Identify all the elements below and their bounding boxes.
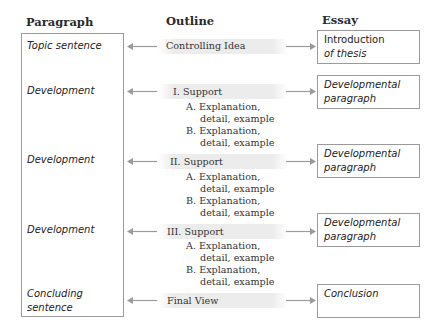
outline-column-header: Outline [166,14,214,28]
paragraph-development-3: Development [27,223,94,237]
outline-support-3-sub-a1: A. Explanation, [186,240,260,253]
essay-box-developmental-3: Developmental paragraph [317,213,420,247]
paragraph-concluding-sentence: Concluding sentence [27,287,117,315]
outline-support-3: III. Support [167,226,224,239]
paragraph-development-2: Development [27,153,94,167]
outline-support-3-sub-b2: detail, example [200,276,274,289]
essay-developmental-2-line1: Developmental [324,147,413,161]
arrow-right-icon [286,87,316,96]
outline-support-2-sub-a2: detail, example [200,183,274,196]
arrow-left-icon [127,296,157,305]
paragraph-development-1: Development [27,84,94,98]
outline-support-1-sub-b1: B. Explanation, [186,125,260,138]
essay-box-conclusion: Conclusion [317,284,420,318]
outline-support-1: I. Support [173,86,222,99]
arrow-left-icon [127,42,157,51]
essay-column-header: Essay [322,13,358,27]
arrow-left-icon [127,87,157,96]
outline-support-1-sub-a1: A. Explanation, [186,101,260,114]
outline-controlling-idea: Controlling Idea [166,40,245,53]
arrow-left-icon [127,227,157,236]
essay-developmental-1-line1: Developmental [324,78,413,92]
outline-support-1-sub-b2: detail, example [200,137,274,150]
outline-support-3-sub-b1: B. Explanation, [186,264,260,277]
essay-box-developmental-1: Developmental paragraph [317,75,420,109]
essay-developmental-1-line2: paragraph [324,92,413,106]
essay-developmental-2-line2: paragraph [324,161,413,175]
essay-box-introduction: Introduction of thesis [317,30,420,64]
outline-support-2: II. Support [170,156,223,169]
outline-support-3-sub-a2: detail, example [200,252,274,265]
outline-final-view: Final View [167,295,218,308]
arrow-right-icon [286,227,316,236]
arrow-left-icon [127,157,157,166]
arrow-right-icon [286,42,316,51]
paragraph-box [21,33,124,317]
essay-conclusion-line1: Conclusion [324,287,413,301]
essay-developmental-3-line2: paragraph [324,230,413,244]
outline-support-2-sub-b2: detail, example [200,207,274,220]
essay-introduction-line1: Introduction [324,33,413,47]
arrow-right-icon [286,157,316,166]
essay-introduction-line2: of thesis [324,47,413,61]
essay-box-developmental-2: Developmental paragraph [317,144,420,178]
paragraph-column-header: Paragraph [26,15,93,29]
outline-support-2-sub-b1: B. Explanation, [186,195,260,208]
essay-developmental-3-line1: Developmental [324,216,413,230]
outline-support-2-sub-a1: A. Explanation, [186,171,260,184]
arrow-right-icon [286,296,316,305]
paragraph-topic-sentence: Topic sentence [27,39,102,53]
outline-support-1-sub-a2: detail, example [200,113,274,126]
